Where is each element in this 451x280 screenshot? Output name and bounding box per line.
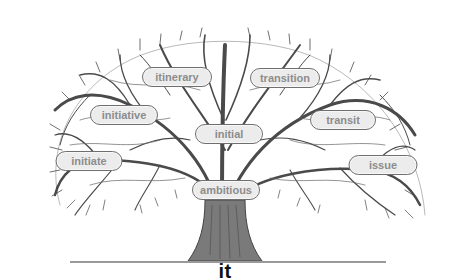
word-pill-ambitious[interactable]: ambitious bbox=[192, 180, 260, 200]
word-pill-itinerary[interactable]: itinerary bbox=[142, 67, 212, 87]
word-pill-issue[interactable]: issue bbox=[349, 155, 418, 175]
word-pill-initiate[interactable]: initiate bbox=[56, 151, 123, 171]
word-pill-initial[interactable]: initial bbox=[195, 124, 263, 144]
word-pill-transit[interactable]: transit bbox=[310, 110, 376, 130]
trunk-icon bbox=[188, 200, 262, 261]
word-pill-transition[interactable]: transition bbox=[250, 68, 320, 88]
root-word: it bbox=[218, 260, 231, 280]
word-pill-initiative[interactable]: initiative bbox=[90, 105, 158, 125]
